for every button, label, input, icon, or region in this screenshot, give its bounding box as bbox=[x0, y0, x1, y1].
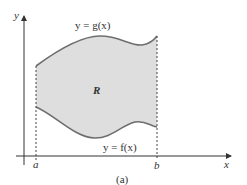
y-axis-label: y bbox=[13, 9, 19, 21]
region-label: R bbox=[92, 84, 100, 96]
lower-curve-label: y = f(x) bbox=[103, 141, 137, 154]
x-axis-label: x bbox=[223, 158, 229, 170]
figure-caption: (a) bbox=[116, 173, 129, 185]
bound-label-b: b bbox=[154, 159, 160, 171]
bound-label-a: a bbox=[33, 158, 39, 170]
region-between-curves-diagram: y x a b y = g(x) y = f(x) R (a) bbox=[0, 0, 247, 185]
upper-curve-label: y = g(x) bbox=[75, 19, 111, 32]
